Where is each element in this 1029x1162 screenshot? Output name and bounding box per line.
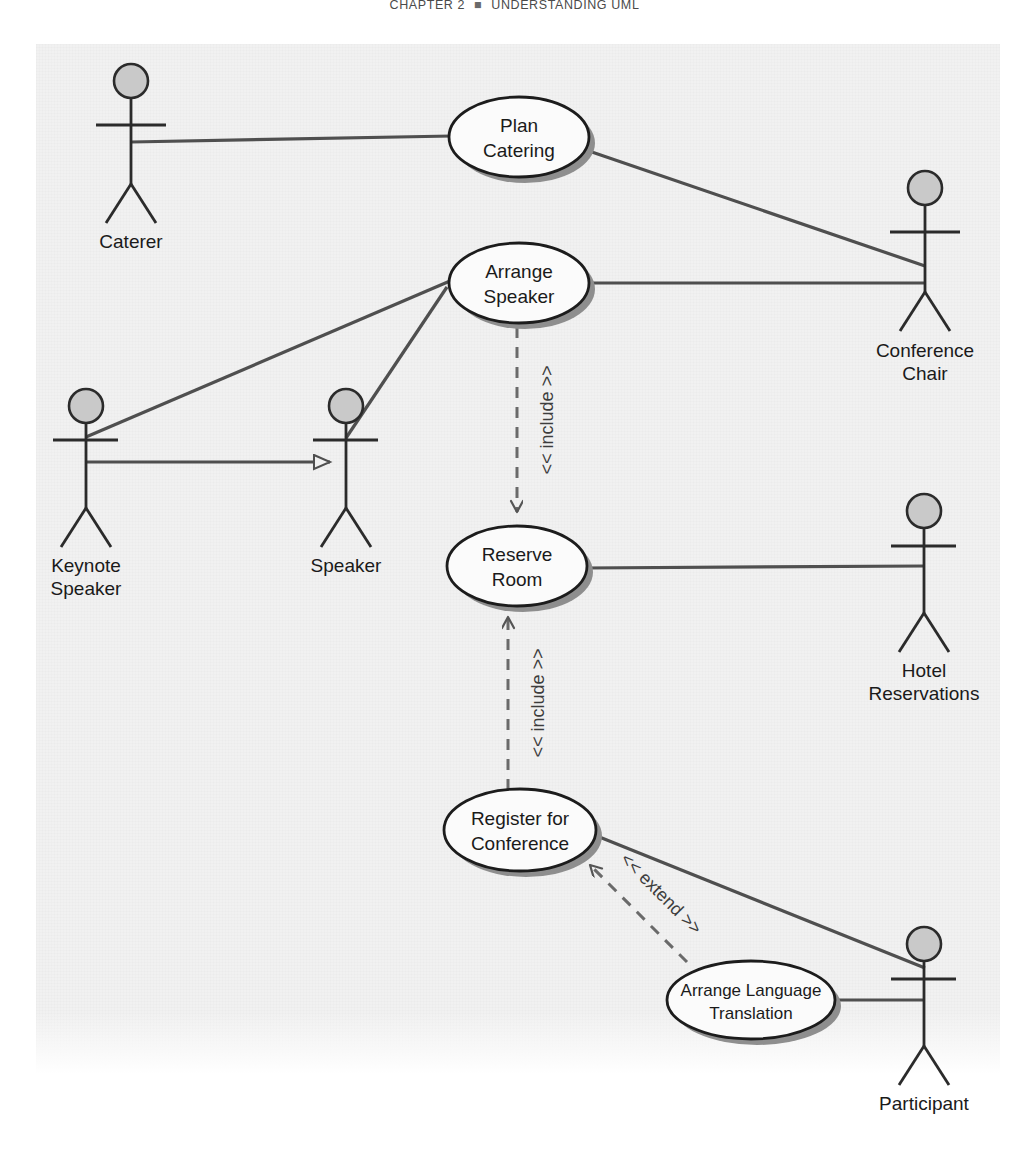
page-canvas: CHAPTER 2■UNDERSTANDING UML	[0, 0, 1029, 1162]
actor-head-icon	[907, 927, 941, 961]
actor-label-line1: Conference	[876, 340, 974, 361]
actor-leg-right	[924, 613, 949, 652]
use-case-label-line1: Reserve	[482, 544, 553, 565]
actor-leg-left	[900, 292, 925, 331]
include-label-bottom: << include >>	[528, 648, 548, 757]
actor-head-icon	[69, 389, 103, 423]
actor-leg-right	[86, 508, 111, 547]
use-case-ellipse	[667, 961, 835, 1039]
actor-label-line2: Speaker	[51, 578, 122, 599]
actor-leg-left	[899, 1046, 924, 1085]
include-arrange-speaker-reserve-room: << include >>	[517, 327, 557, 512]
actor-label: Caterer	[99, 231, 163, 252]
include-label-top: << include >>	[537, 365, 557, 474]
actor-label: Participant	[879, 1093, 969, 1114]
actor-speaker[interactable]: Speaker	[311, 389, 382, 576]
use-case-label-line1: Arrange	[485, 261, 553, 282]
actor-leg-left	[61, 508, 86, 547]
actor-leg-right	[346, 508, 371, 547]
actor-leg-left	[321, 508, 346, 547]
use-case-ellipse	[449, 243, 589, 323]
use-case-label-line2: Conference	[471, 833, 569, 854]
use-case-label-line1: Register for	[471, 808, 570, 829]
actor-leg-right	[131, 184, 156, 223]
use-case-arrange-language-translation[interactable]: Arrange Language Translation	[667, 961, 841, 1045]
use-case-label-line1: Plan	[500, 115, 538, 136]
use-case-ellipse	[447, 526, 587, 606]
assoc-caterer-plan-catering	[131, 136, 452, 142]
actor-leg-left	[106, 184, 131, 223]
actor-head-icon	[329, 389, 363, 423]
use-case-register-for-conference[interactable]: Register for Conference	[444, 789, 602, 877]
actor-leg-left	[899, 613, 924, 652]
assoc-keynote-arrange-speaker	[86, 281, 450, 437]
actor-label-line2: Chair	[902, 363, 948, 384]
actor-head-icon	[907, 494, 941, 528]
actor-caterer[interactable]: Caterer	[96, 64, 166, 252]
use-case-ellipse	[444, 789, 596, 871]
include-register-reserve-room: << include >>	[508, 617, 548, 790]
actor-keynote-speaker[interactable]: Keynote Speaker	[51, 389, 122, 599]
use-case-label-line2: Room	[492, 569, 543, 590]
use-case-plan-catering[interactable]: Plan Catering	[449, 97, 595, 183]
actor-label-line1: Hotel	[902, 660, 946, 681]
actor-label-line1: Keynote	[51, 555, 121, 576]
actor-conference-chair[interactable]: Conference Chair	[876, 171, 974, 384]
actor-head-icon	[908, 171, 942, 205]
actor-leg-right	[924, 1046, 949, 1085]
use-case-label-line1: Arrange Language	[681, 981, 822, 1000]
use-case-ellipse	[449, 97, 589, 177]
use-case-label-line2: Speaker	[484, 286, 555, 307]
actor-leg-right	[925, 292, 950, 331]
actor-label: Speaker	[311, 555, 382, 576]
assoc-chair-plan-catering	[586, 150, 925, 266]
use-case-arrange-speaker[interactable]: Arrange Speaker	[449, 243, 595, 329]
use-case-label-line2: Translation	[709, 1004, 792, 1023]
actor-head-icon	[114, 64, 148, 98]
actor-hotel-reservations[interactable]: Hotel Reservations	[869, 494, 980, 704]
assoc-hotel-reserve-room	[584, 566, 924, 568]
assoc-participant-register	[587, 832, 925, 968]
actor-label-line2: Reservations	[869, 683, 980, 704]
extend-translation-register: << extend >>	[590, 849, 706, 962]
use-case-reserve-room[interactable]: Reserve Room	[447, 526, 593, 612]
use-case-label-line2: Catering	[483, 140, 555, 161]
use-case-diagram: << include >> << include >> << extend >>…	[0, 0, 1029, 1162]
